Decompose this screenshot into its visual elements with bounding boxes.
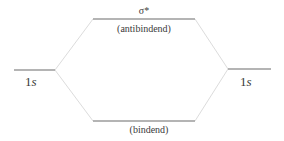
left-atomic-label: 1s [25, 74, 37, 89]
antibonding-symbol: σ* [139, 5, 149, 16]
antibonding-caption: (antibindend) [117, 23, 171, 35]
bonding-caption: (bindend) [130, 124, 169, 136]
connector-left-to-bonding [55, 70, 93, 121]
mo-diagram: σ* (antibindend) (bindend) 1s 1s [0, 0, 284, 141]
connector-left-to-antibonding [55, 19, 93, 70]
connector-right-to-antibonding [195, 19, 228, 69]
left-atomic-orbital: s [32, 74, 37, 89]
right-atomic-orbital: s [247, 74, 252, 89]
right-atomic-label: 1s [240, 74, 252, 89]
connector-right-to-bonding [195, 69, 228, 121]
